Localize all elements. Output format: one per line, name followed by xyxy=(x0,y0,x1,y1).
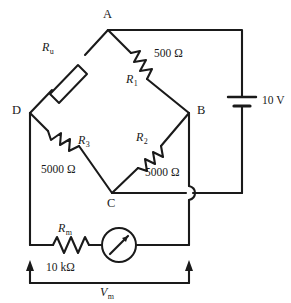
rm-value: 10 kΩ xyxy=(46,262,75,274)
vm-left-arrowhead xyxy=(26,260,34,271)
r2-symbol: R xyxy=(136,130,143,144)
rm-label: Rm xyxy=(58,222,72,234)
r2-label: R2 xyxy=(136,131,147,143)
r1-subscript: 1 xyxy=(134,79,138,88)
wire-a-to-r1 xyxy=(108,30,131,53)
wire-a-to-battery-top xyxy=(108,30,242,97)
r1-symbol: R xyxy=(126,72,133,86)
vm-right-arrowhead xyxy=(185,260,193,271)
rm-symbol: R xyxy=(58,221,65,235)
vm-label: Vm xyxy=(100,286,114,298)
rm-zigzag xyxy=(53,237,89,253)
wire-ru-to-a xyxy=(85,30,108,55)
r3-subscript: 3 xyxy=(86,140,90,149)
battery-value: 10 V xyxy=(262,95,284,107)
node-label-c: C xyxy=(107,197,115,210)
r1-label: R1 xyxy=(126,73,137,85)
r1-value: 500 Ω xyxy=(154,48,183,60)
r3-zigzag xyxy=(48,131,79,151)
rm-subscript: m xyxy=(66,228,72,237)
wire-r3-to-c xyxy=(79,146,112,193)
wire-battery-to-c xyxy=(193,106,242,193)
r3-label: R3 xyxy=(78,134,89,146)
r3-value: 5000 Ω xyxy=(41,164,75,176)
node-label-b: B xyxy=(197,104,205,117)
wire-c-to-r2 xyxy=(112,168,138,193)
unknown-resistor-body xyxy=(50,65,87,103)
wire-d-to-ru xyxy=(30,90,52,113)
wire-r1-to-b xyxy=(147,79,189,113)
wire-r2-to-b xyxy=(161,113,189,146)
vm-subscript: m xyxy=(108,292,114,301)
vm-symbol: V xyxy=(100,285,107,299)
circuit-diagram: A B C D Ru R1 500 Ω R3 5000 Ω R2 5000 Ω … xyxy=(0,0,291,303)
unknown-resistor-label: Ru xyxy=(42,41,53,53)
r2-subscript: 2 xyxy=(144,137,148,146)
r2-value: 5000 Ω xyxy=(145,167,179,179)
node-label-a: A xyxy=(103,8,112,21)
unknown-resistor-subscript: u xyxy=(50,47,54,56)
node-label-d: D xyxy=(12,104,21,117)
unknown-resistor-symbol: R xyxy=(42,40,49,54)
wire-d-to-r3 xyxy=(30,113,48,131)
r3-symbol: R xyxy=(78,133,85,147)
